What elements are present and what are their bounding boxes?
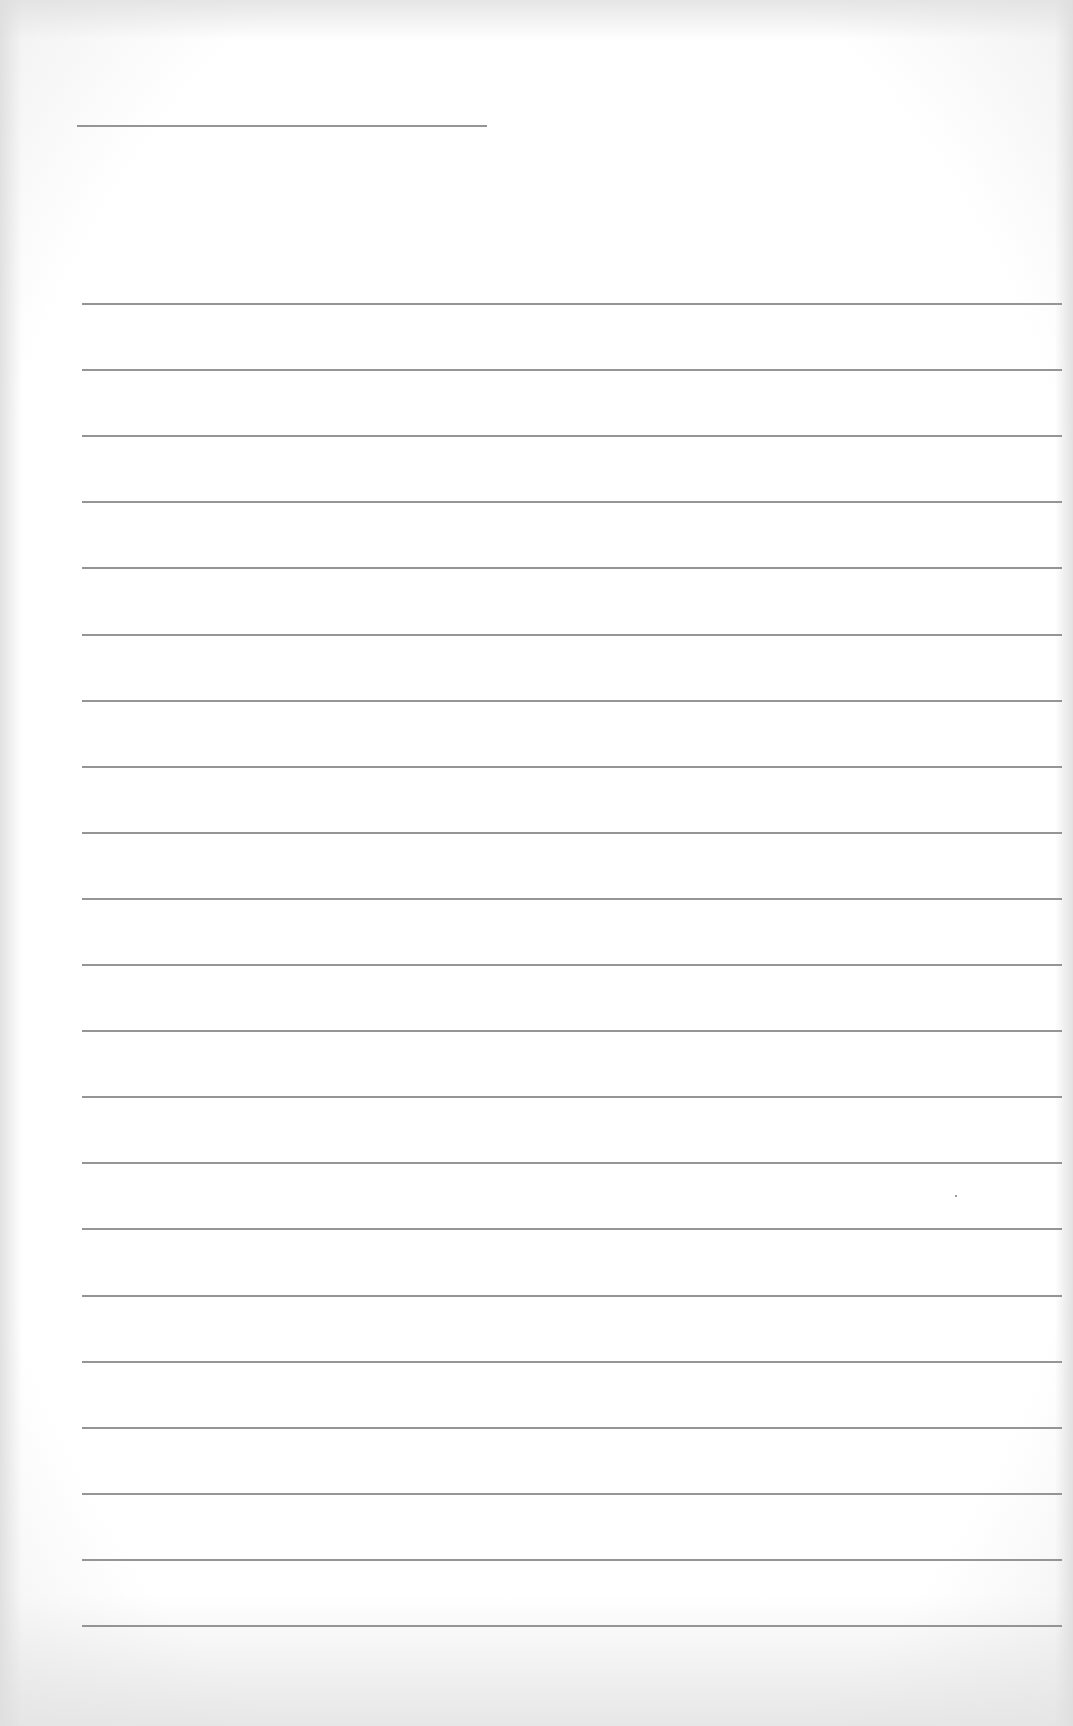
ruled-line <box>82 1096 1062 1098</box>
ruled-line <box>82 964 1062 966</box>
ruled-line <box>82 1493 1062 1495</box>
paper-speck <box>955 1195 957 1197</box>
ruled-line <box>82 1295 1062 1297</box>
ruled-line <box>82 700 1062 702</box>
ruled-line <box>82 766 1062 768</box>
ruled-line <box>82 1228 1062 1230</box>
ruled-line <box>82 501 1062 503</box>
ruled-line <box>82 1559 1062 1561</box>
paper-edge-shadow-right <box>1055 0 1073 1726</box>
ruled-line <box>82 898 1062 900</box>
ruled-line <box>82 567 1062 569</box>
ruled-line <box>82 1361 1062 1363</box>
ruled-line <box>82 634 1062 636</box>
lined-paper-sheet <box>0 0 1073 1726</box>
ruled-line <box>82 435 1062 437</box>
ruled-line <box>82 1030 1062 1032</box>
ruled-line <box>82 1162 1062 1164</box>
header-rule-line <box>77 125 487 127</box>
ruled-line <box>82 369 1062 371</box>
paper-edge-shadow-bottom <box>0 1596 1073 1726</box>
ruled-line <box>82 832 1062 834</box>
ruled-line <box>82 1427 1062 1429</box>
ruled-line <box>82 1625 1062 1627</box>
paper-edge-shadow-left <box>0 0 22 1726</box>
ruled-line <box>82 303 1062 305</box>
paper-edge-shadow-top <box>0 0 1073 40</box>
